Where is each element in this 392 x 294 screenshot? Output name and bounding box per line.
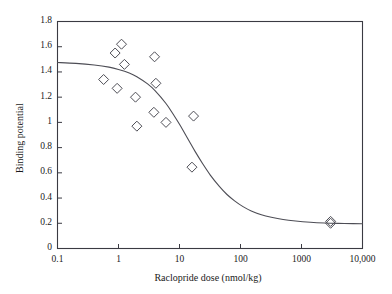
plot-frame	[58, 22, 363, 249]
y-tick-label: 1.8	[20, 15, 52, 25]
data-point-marker	[117, 39, 127, 49]
dose-response-plot	[0, 0, 392, 294]
data-point-marker	[150, 52, 160, 62]
data-point-marker	[112, 83, 122, 93]
y-tick-label: 0.2	[20, 217, 52, 227]
y-tick-label: 1.4	[20, 65, 52, 75]
data-point-marker	[99, 75, 109, 85]
x-tick-label: 1000	[280, 254, 324, 264]
x-tick-label: 10	[158, 254, 202, 264]
y-tick-label: 0.4	[20, 192, 52, 202]
x-tick-label: 0.1	[36, 254, 80, 264]
y-tick-label: 0.6	[20, 166, 52, 176]
y-tick-label: 0	[20, 242, 52, 252]
y-axis-title: Binding potential	[14, 103, 25, 173]
data-markers	[99, 39, 336, 228]
data-point-marker	[131, 92, 141, 102]
y-tick-label: 1.6	[20, 40, 52, 50]
x-tick-label: 100	[219, 254, 263, 264]
data-point-marker	[151, 78, 161, 88]
x-axis-title: Raclopride dose (nmol/kg)	[12, 272, 392, 283]
data-point-marker	[132, 121, 142, 131]
y-tick-label: 1	[20, 116, 52, 126]
y-tick-label: 0.8	[20, 141, 52, 151]
data-point-marker	[161, 117, 171, 127]
data-point-marker	[187, 162, 197, 172]
y-tick-label: 1.2	[20, 91, 52, 101]
fit-curve	[58, 62, 363, 223]
x-tick-label: 10,000	[341, 254, 385, 264]
data-point-marker	[110, 48, 120, 58]
x-tick-label: 1	[97, 254, 141, 264]
axis-ticks	[58, 22, 363, 249]
data-point-marker	[189, 111, 199, 121]
data-point-marker	[149, 107, 159, 117]
chart-container: Binding potential Raclopride dose (nmol/…	[0, 0, 392, 294]
data-point-marker	[119, 59, 129, 69]
